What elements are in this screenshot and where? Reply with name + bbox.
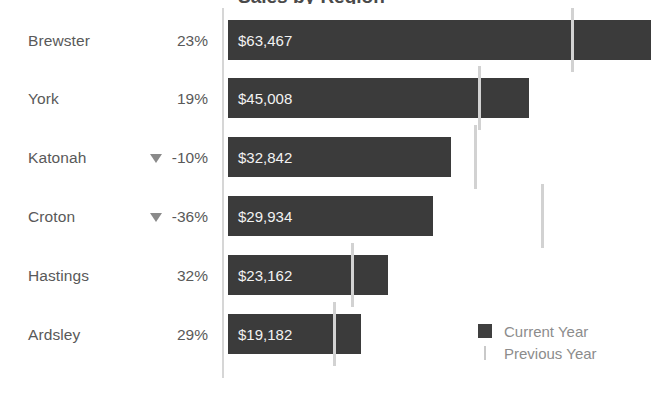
category-name: Ardsley	[28, 326, 80, 344]
category-label-column: Brewster23%York19%Katonah-10%Croton-36%H…	[0, 0, 222, 395]
delta-cell: -10%	[128, 149, 208, 167]
legend-label-previous-year: Previous Year	[504, 345, 597, 362]
delta-value: 23%	[177, 32, 208, 50]
previous-year-reference-marker[interactable]	[351, 243, 354, 307]
delta-cell: 29%	[128, 326, 208, 344]
bar-current-year[interactable]: $32,842	[228, 137, 451, 177]
delta-cell: 19%	[128, 90, 208, 108]
previous-year-reference-marker[interactable]	[541, 184, 544, 248]
delta-value: -36%	[172, 208, 208, 226]
bullet-bar-chart: Sales by Region Brewster23%York19%Katona…	[0, 0, 667, 395]
delta-value: 29%	[177, 326, 208, 344]
category-name: Katonah	[28, 149, 86, 167]
bar-current-year[interactable]: $45,008	[228, 78, 529, 118]
previous-year-reference-marker[interactable]	[333, 302, 336, 366]
category-row: Katonah-10%	[0, 129, 222, 187]
chart-legend: Current Year Previous Year	[478, 320, 663, 364]
category-name: Croton	[28, 208, 75, 226]
delta-cell: 23%	[128, 32, 208, 50]
category-name: Brewster	[28, 32, 90, 50]
bar-current-year[interactable]: $19,182	[228, 314, 361, 354]
previous-year-reference-marker[interactable]	[474, 125, 477, 189]
category-row: Ardsley29%	[0, 306, 222, 364]
legend-item-current-year[interactable]: Current Year	[478, 320, 663, 342]
triangle-down-icon	[150, 154, 162, 163]
bar-value-label: $29,934	[238, 196, 292, 236]
bar-current-year[interactable]: $23,162	[228, 255, 388, 295]
bar-value-label: $19,182	[238, 314, 292, 354]
delta-cell: -36%	[128, 208, 208, 226]
previous-year-reference-marker[interactable]	[571, 8, 574, 72]
previous-year-marker-icon	[478, 346, 492, 360]
legend-label-current-year: Current Year	[504, 323, 588, 340]
category-row: Hastings32%	[0, 247, 222, 305]
value-axis-line	[222, 8, 224, 378]
category-row: Brewster23%	[0, 12, 222, 70]
delta-value: 19%	[177, 90, 208, 108]
current-year-swatch-icon	[478, 324, 492, 338]
bar-value-label: $45,008	[238, 78, 292, 118]
bar-value-label: $23,162	[238, 255, 292, 295]
previous-year-reference-marker[interactable]	[478, 66, 481, 130]
bar-value-label: $32,842	[238, 137, 292, 177]
bar-value-label: $63,467	[238, 20, 292, 60]
category-row: York19%	[0, 70, 222, 128]
category-row: Croton-36%	[0, 188, 222, 246]
bar-current-year[interactable]: $63,467	[228, 20, 651, 60]
bar-current-year[interactable]: $29,934	[228, 196, 433, 236]
legend-item-previous-year[interactable]: Previous Year	[478, 342, 663, 364]
delta-value: -10%	[172, 149, 208, 167]
delta-value: 32%	[177, 267, 208, 285]
category-name: Hastings	[28, 267, 89, 285]
triangle-down-icon	[150, 213, 162, 222]
delta-cell: 32%	[128, 267, 208, 285]
category-name: York	[28, 90, 59, 108]
